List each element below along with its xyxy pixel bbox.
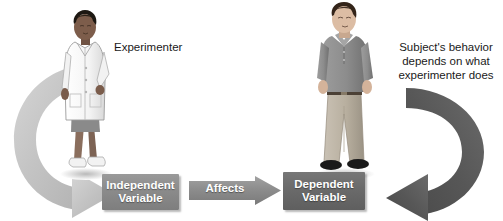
left-curved-arrow-icon: [2, 60, 118, 218]
independent-variable-box: Independent Variable: [102, 174, 179, 210]
experimenter-label: Experimenter: [114, 40, 182, 54]
subject-behavior-label: Subject's behavior depends on what exper…: [392, 40, 500, 82]
affects-arrow-icon: [189, 176, 281, 205]
right-curved-arrow-icon: [384, 76, 502, 221]
diagram-canvas: Experimenter Subject's behavior depends …: [0, 0, 503, 221]
dependent-variable-box: Dependent Variable: [283, 172, 365, 210]
subject-person-figure: [306, 2, 384, 182]
